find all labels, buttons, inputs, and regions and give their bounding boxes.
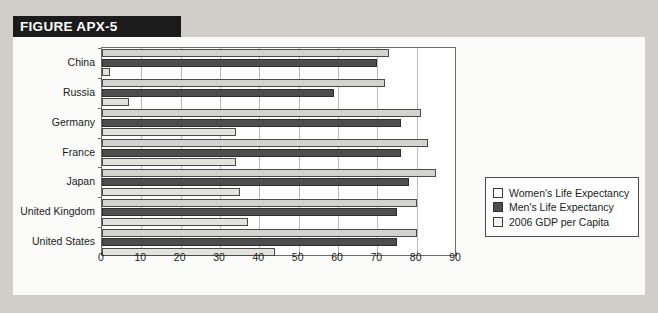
bar-russia-series-1 <box>102 89 334 97</box>
category-label-germany: Germany <box>52 116 95 128</box>
bar-united-states-series-2 <box>102 248 275 256</box>
bar-germany-series-0 <box>102 109 421 117</box>
chart-legend: Women's Life ExpectancyMen's Life Expect… <box>485 177 639 237</box>
bar-united-kingdom-series-1 <box>102 208 397 216</box>
x-tick-label-40: 40 <box>252 251 264 263</box>
bar-china-series-2 <box>102 68 110 76</box>
bar-russia-series-2 <box>102 98 129 106</box>
x-tick-label-90: 90 <box>449 251 461 263</box>
bar-germany-series-1 <box>102 119 401 127</box>
bar-china-series-1 <box>102 59 377 67</box>
legend-label-1: Men's Life Expectancy <box>509 201 614 213</box>
x-tick-label-70: 70 <box>370 251 382 263</box>
figure-number-label: FIGURE APX-5 <box>13 19 118 34</box>
x-tick-label-0: 0 <box>98 251 104 263</box>
category-label-united-kingdom: United Kingdom <box>20 205 95 217</box>
y-tick-4 <box>98 167 102 168</box>
legend-item-2[interactable]: 2006 GDP per Capita <box>493 216 629 228</box>
bar-united-states-series-1 <box>102 238 397 246</box>
bar-russia-series-0 <box>102 79 385 87</box>
category-label-france: France <box>62 146 95 158</box>
x-tick-label-60: 60 <box>331 251 343 263</box>
x-tick-label-10: 10 <box>134 251 146 263</box>
category-label-japan: Japan <box>66 175 95 187</box>
figure-container: FIGURE APX-5 Women's Life ExpectancyMen'… <box>0 0 658 313</box>
bar-china-series-0 <box>102 49 389 57</box>
legend-label-2: 2006 GDP per Capita <box>509 216 609 228</box>
x-tick-label-80: 80 <box>410 251 422 263</box>
category-label-russia: Russia <box>63 86 95 98</box>
bar-japan-series-2 <box>102 188 240 196</box>
bar-germany-series-2 <box>102 128 236 136</box>
bar-japan-series-1 <box>102 178 409 186</box>
bar-united-kingdom-series-2 <box>102 218 248 226</box>
bar-japan-series-0 <box>102 169 436 177</box>
legend-swatch-gdp-icon <box>493 217 503 227</box>
legend-item-0[interactable]: Women's Life Expectancy <box>493 187 629 199</box>
category-label-china: China <box>68 56 95 68</box>
legend-item-1[interactable]: Men's Life Expectancy <box>493 201 629 213</box>
plot-area <box>101 47 456 256</box>
legend-swatch-women-icon <box>493 188 503 198</box>
bar-united-kingdom-series-0 <box>102 199 417 207</box>
bar-united-states-series-0 <box>102 229 417 237</box>
x-tick-label-20: 20 <box>174 251 186 263</box>
category-label-united-states: United States <box>32 235 95 247</box>
chart-card: Women's Life ExpectancyMen's Life Expect… <box>13 37 645 295</box>
bar-france-series-0 <box>102 139 428 147</box>
figure-banner: FIGURE APX-5 <box>13 16 181 37</box>
legend-label-0: Women's Life Expectancy <box>509 187 629 199</box>
gridline-80 <box>417 48 418 255</box>
legend-swatch-men-icon <box>493 202 503 212</box>
x-tick-label-30: 30 <box>213 251 225 263</box>
bar-france-series-1 <box>102 149 401 157</box>
bar-france-series-2 <box>102 158 236 166</box>
x-tick-label-50: 50 <box>292 251 304 263</box>
